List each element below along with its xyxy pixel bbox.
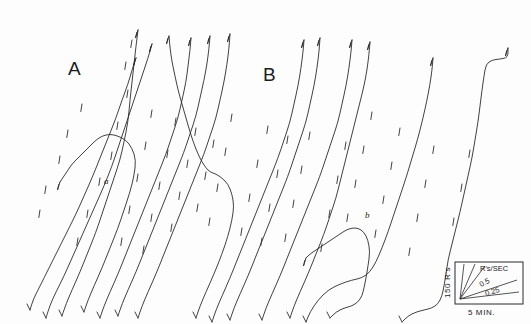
reinforcement-tick	[249, 194, 250, 202]
reinforcement-tick	[195, 128, 196, 136]
record-curve	[46, 44, 152, 318]
reinforcement-tick	[461, 184, 462, 192]
reinforcement-tick	[117, 122, 118, 130]
record-start-mark	[287, 312, 290, 318]
reinforcement-tick	[287, 136, 288, 144]
reinforcement-tick	[257, 160, 258, 168]
reinforcement-tick	[293, 200, 294, 208]
reinforcement-tick	[309, 132, 310, 140]
reinforcement-tick	[261, 238, 262, 246]
reinforcement-tick	[45, 186, 46, 194]
reinforcement-tick	[347, 214, 348, 222]
record-start-mark	[399, 316, 402, 322]
reinforcement-tick	[205, 172, 206, 180]
reinforcement-tick	[59, 156, 60, 164]
reinforcement-tick	[187, 160, 188, 168]
reinforcement-tick	[399, 128, 400, 136]
reinforcement-tick	[391, 162, 392, 170]
reinforcement-tick	[363, 146, 364, 154]
reinforcement-tick	[129, 206, 130, 214]
reinforcement-tick	[277, 170, 278, 178]
reinforcement-tick	[267, 126, 268, 134]
panel-label-b: B	[263, 64, 276, 86]
reinforcement-tick	[179, 192, 180, 200]
reinforcement-tick	[375, 230, 376, 238]
reinforcement-tick	[213, 140, 214, 148]
reinforcement-tick	[151, 110, 152, 118]
record-start-mark	[97, 312, 100, 318]
reinforcement-tick	[209, 218, 210, 226]
reinforcement-tick	[409, 248, 410, 256]
record-curve	[169, 36, 234, 318]
reinforcement-tick	[269, 204, 270, 212]
record-curve	[306, 58, 433, 322]
reinforcement-tick	[127, 90, 128, 98]
record-start-mark	[135, 312, 138, 318]
record-start-mark	[115, 310, 118, 316]
reinforcement-tick	[225, 148, 226, 156]
response-ticks-group	[39, 40, 470, 256]
reinforcement-tick	[137, 174, 138, 182]
reinforcement-tick	[453, 218, 454, 226]
record-start-mark	[27, 304, 30, 310]
reinforcement-tick	[151, 214, 152, 222]
reinforcement-tick	[345, 142, 346, 150]
record-curve	[118, 36, 210, 316]
reinforcement-tick	[111, 152, 112, 160]
reinforcement-tick	[99, 178, 100, 186]
record-start-mark	[59, 310, 62, 316]
cumulative-record-figure: R's/SEC0.50.25 A B a b 5 MIN. 150 R's	[0, 0, 531, 324]
reinforcement-tick	[371, 112, 372, 120]
pen-reset-mark	[58, 182, 61, 190]
reinforcement-tick	[87, 210, 88, 218]
pen-reset-mark	[167, 36, 170, 44]
record-start-mark	[43, 312, 46, 318]
reinforcement-tick	[301, 166, 302, 174]
reinforcement-tick	[197, 204, 198, 212]
record-start-mark	[81, 306, 84, 312]
pen-reset-mark	[150, 44, 153, 52]
record-start-mark	[209, 316, 212, 322]
record-curve	[212, 40, 304, 322]
legend-y-axis-label: 150 R's	[443, 267, 452, 298]
record-start-mark	[327, 312, 330, 318]
reinforcement-tick	[321, 244, 322, 252]
reinforcement-tick	[125, 62, 126, 70]
reinforcement-tick	[81, 104, 82, 112]
record-curve	[30, 58, 136, 310]
reinforcement-tick	[217, 184, 218, 192]
panel-label-a: A	[68, 58, 81, 80]
reinforcement-tick	[231, 114, 232, 122]
reinforcement-tick	[417, 214, 418, 222]
reinforcement-tick	[433, 146, 434, 154]
reinforcement-tick	[39, 210, 40, 218]
record-start-mark	[227, 314, 230, 320]
record-start-mark	[259, 314, 262, 320]
reinforcement-tick	[285, 234, 286, 242]
record-start-mark	[193, 312, 196, 318]
point-label-a: a	[104, 176, 109, 186]
rate-legend-graphic: R's/SEC0.50.25	[455, 262, 523, 304]
pen-reset-mark	[304, 258, 307, 266]
reinforcement-tick	[425, 180, 426, 188]
reinforcement-tick	[469, 150, 470, 158]
record-curve	[138, 34, 230, 318]
record-curve	[290, 42, 370, 318]
point-label-b: b	[365, 210, 370, 220]
record-start-mark	[303, 316, 306, 322]
reinforcement-tick	[121, 238, 122, 246]
reinforcement-tick	[131, 40, 132, 48]
reinforcement-tick	[383, 196, 384, 204]
reinforcement-tick	[241, 228, 242, 236]
legend-rate-label: 0.25	[484, 285, 501, 298]
reinforcement-tick	[337, 176, 338, 184]
reinforcement-tick	[355, 180, 356, 188]
legend-title: R's/SEC	[480, 264, 509, 273]
legend-x-axis-label: 5 MIN.	[468, 308, 495, 317]
reinforcement-tick	[159, 182, 160, 190]
reinforcement-tick	[171, 224, 172, 232]
reinforcement-tick	[145, 142, 146, 150]
reinforcement-tick	[67, 130, 68, 138]
